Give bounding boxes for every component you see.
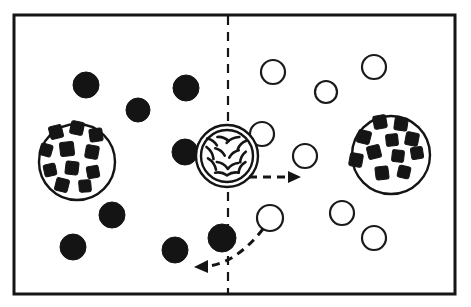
open-particle xyxy=(315,81,337,103)
open-particle xyxy=(261,60,285,84)
filled-particle xyxy=(208,224,236,252)
filled-particle xyxy=(99,202,125,228)
cargo-square xyxy=(348,152,363,167)
cargo-square xyxy=(397,165,411,179)
cargo-square xyxy=(372,114,387,129)
cargo-square xyxy=(48,124,64,140)
cargo-square xyxy=(84,144,99,159)
cargo-square xyxy=(59,141,74,156)
cargo-square xyxy=(89,128,104,143)
filled-particle xyxy=(173,75,199,101)
cargo-square xyxy=(385,133,398,146)
diagram-canvas xyxy=(0,0,471,307)
cargo-square xyxy=(410,146,424,160)
cargo-square xyxy=(43,163,57,177)
cargo-square xyxy=(39,143,54,158)
transporter-outer-ring xyxy=(196,125,258,187)
filled-particle xyxy=(73,72,99,98)
membrane-transporter xyxy=(196,125,258,187)
cargo-square xyxy=(394,117,409,132)
filled-particle xyxy=(60,234,86,260)
open-particle xyxy=(293,144,317,168)
cargo-square xyxy=(54,177,70,193)
cargo-square xyxy=(404,131,419,146)
diagram-root xyxy=(0,0,471,307)
cargo-square xyxy=(375,166,389,180)
cargo-square xyxy=(356,129,372,145)
filled-particle xyxy=(172,139,198,165)
open-particle xyxy=(362,55,386,79)
open-particle xyxy=(362,226,386,250)
filled-particle xyxy=(162,237,188,263)
open-particle xyxy=(330,201,354,225)
cargo-square xyxy=(391,149,404,162)
filled-particle xyxy=(126,98,150,122)
cargo-square xyxy=(65,161,79,175)
open-particle xyxy=(257,205,283,231)
cargo-square xyxy=(366,144,382,160)
cargo-square xyxy=(69,120,84,135)
cargo-square xyxy=(78,179,91,192)
cargo-square xyxy=(86,165,100,179)
